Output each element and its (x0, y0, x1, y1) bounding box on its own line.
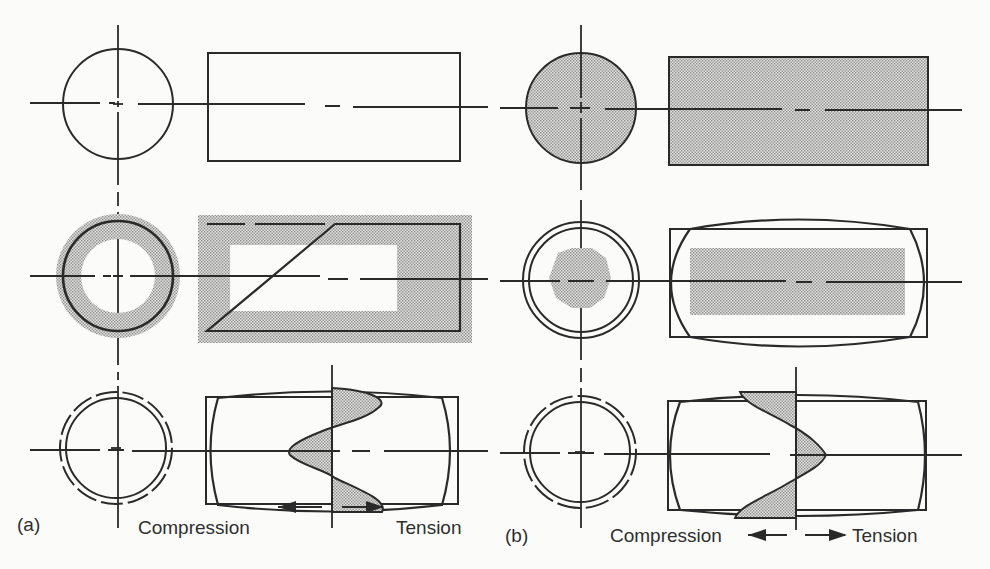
panel-b-legend-arrows (748, 529, 847, 541)
panel-a-tension-label: Tension (396, 518, 462, 537)
panel-b-row3-centerline (500, 453, 962, 455)
panel-b-row1-side-view (669, 57, 928, 165)
panel-b-tension-label: Tension (852, 526, 918, 545)
panel-b-row2-side-view (670, 220, 927, 347)
panel-b-row3-side-view (668, 367, 926, 530)
panel-b-compression-label: Compression (610, 526, 722, 545)
panel-a-row1-centerline (30, 103, 488, 107)
panel-a-stress-profile (289, 388, 383, 512)
panel-a-label: (a) (17, 515, 40, 534)
panel-a-row3-side-view (206, 365, 458, 528)
panel-a-row3-centerline (30, 450, 488, 451)
panel-a-compression-label: Compression (138, 518, 250, 537)
residual-stress-diagram (0, 0, 990, 569)
panel-b-row2-centerline (500, 281, 962, 282)
panel-b-label: (b) (505, 526, 528, 545)
